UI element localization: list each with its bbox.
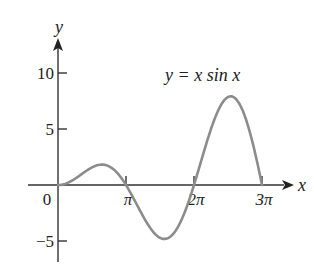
y-axis-label: y bbox=[53, 17, 63, 37]
y-ticks: 105−5 bbox=[36, 64, 67, 251]
x-axis-label: x bbox=[297, 175, 306, 195]
chart-container: y x 105−5 0π2π3π y = x sin x bbox=[0, 0, 314, 268]
chart-svg: y x 105−5 0π2π3π y = x sin x bbox=[0, 0, 314, 268]
function-annotation: y = x sin x bbox=[163, 65, 240, 85]
y-tick-label: 10 bbox=[37, 64, 54, 83]
x-tick-label: 3π bbox=[254, 190, 273, 209]
curve-x-sin-x bbox=[58, 96, 262, 239]
x-tick-label: 0 bbox=[43, 190, 52, 209]
y-tick-label: −5 bbox=[36, 232, 54, 251]
y-tick-label: 5 bbox=[46, 120, 55, 139]
x-ticks: 0π2π3π bbox=[43, 176, 273, 209]
